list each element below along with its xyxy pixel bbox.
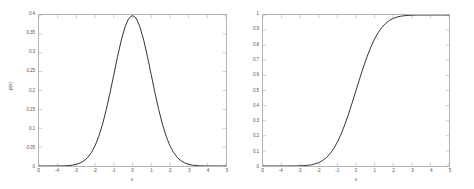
cdf-x-tick-label: 1 — [374, 169, 376, 174]
cdf-y-tick-label: 0.1 — [253, 149, 259, 154]
pdf-y-tick-label: 0.3 — [29, 50, 35, 55]
cdf-x-tick-label: -1 — [335, 169, 339, 174]
cdf-x-tick-label: -5 — [260, 169, 264, 174]
pdf-x-tick-label: -2 — [93, 169, 97, 174]
pdf-axes-box — [38, 14, 227, 167]
cdf-x-tick-label: 3 — [411, 169, 413, 174]
pdf-x-tick-label: -3 — [74, 169, 78, 174]
cdf-y-tick-label: 0 — [257, 165, 259, 170]
cdf-x-tick-label: -2 — [316, 169, 320, 174]
cdf-x-tick-label: 4 — [430, 169, 432, 174]
cdf-y-tick-labels: 00.10.20.30.40.50.60.70.80.91 — [237, 14, 259, 167]
cdf-curve — [263, 15, 449, 166]
pdf-x-tick-label: 0 — [131, 169, 133, 174]
pdf-x-tick-label: -1 — [112, 169, 116, 174]
cdf-axes-box — [262, 14, 450, 167]
pdf-y-tick-label: 0.15 — [26, 107, 35, 112]
pdf-curve — [39, 15, 226, 166]
pdf-x-axis-label: x — [131, 177, 133, 182]
cdf-y-tick-label: 0.8 — [253, 42, 259, 47]
cdf-y-tick-label: 0.9 — [253, 27, 259, 32]
pdf-y-axis-label: p(x) — [8, 82, 13, 90]
cdf-x-axis-label: x — [355, 177, 357, 182]
pdf-y-tick-label: 0.25 — [26, 69, 35, 74]
cdf-y-tick-label: 1 — [257, 12, 259, 17]
pdf-x-tick-label: 1 — [150, 169, 152, 174]
subplot-gaussian-pdf: 00.050.10.150.20.250.30.350.4 -5-4-3-2-1… — [0, 0, 237, 189]
pdf-y-tick-label: 0.35 — [26, 31, 35, 36]
pdf-x-tick-label: 3 — [188, 169, 190, 174]
pdf-y-tick-label: 0.4 — [29, 12, 35, 17]
pdf-y-tick-labels: 00.050.10.150.20.250.30.350.4 — [0, 14, 35, 167]
pdf-x-tick-label: 5 — [226, 169, 228, 174]
cdf-x-tick-label: -3 — [298, 169, 302, 174]
pdf-y-tick-label: 0.2 — [29, 88, 35, 93]
cdf-x-tick-label: 0 — [355, 169, 357, 174]
cdf-y-tick-label: 0.2 — [253, 134, 259, 139]
pdf-x-tick-label: 4 — [207, 169, 209, 174]
pdf-x-tick-label: 2 — [169, 169, 171, 174]
pdf-x-tick-label: -5 — [36, 169, 40, 174]
pdf-y-tick-label: 0.1 — [29, 126, 35, 131]
cdf-y-tick-label: 0.5 — [253, 88, 259, 93]
pdf-plot-area — [39, 15, 226, 166]
cdf-y-tick-label: 0.6 — [253, 73, 259, 78]
cdf-plot-area — [263, 15, 449, 166]
cdf-y-tick-label: 0.4 — [253, 104, 259, 109]
pdf-y-tick-label: 0 — [33, 165, 35, 170]
pdf-y-tick-label: 0.05 — [26, 146, 35, 151]
cdf-x-tick-label: 5 — [449, 169, 451, 174]
cdf-x-tick-label: -4 — [279, 169, 283, 174]
matlab-figure-canvas: 00.050.10.150.20.250.30.350.4 -5-4-3-2-1… — [0, 0, 474, 189]
cdf-y-tick-label: 0.3 — [253, 119, 259, 124]
subplot-gaussian-cdf: 00.10.20.30.40.50.60.70.80.91 -5-4-3-2-1… — [237, 0, 474, 189]
cdf-x-tick-label: 2 — [392, 169, 394, 174]
pdf-x-tick-label: -4 — [55, 169, 59, 174]
cdf-y-tick-label: 0.7 — [253, 58, 259, 63]
